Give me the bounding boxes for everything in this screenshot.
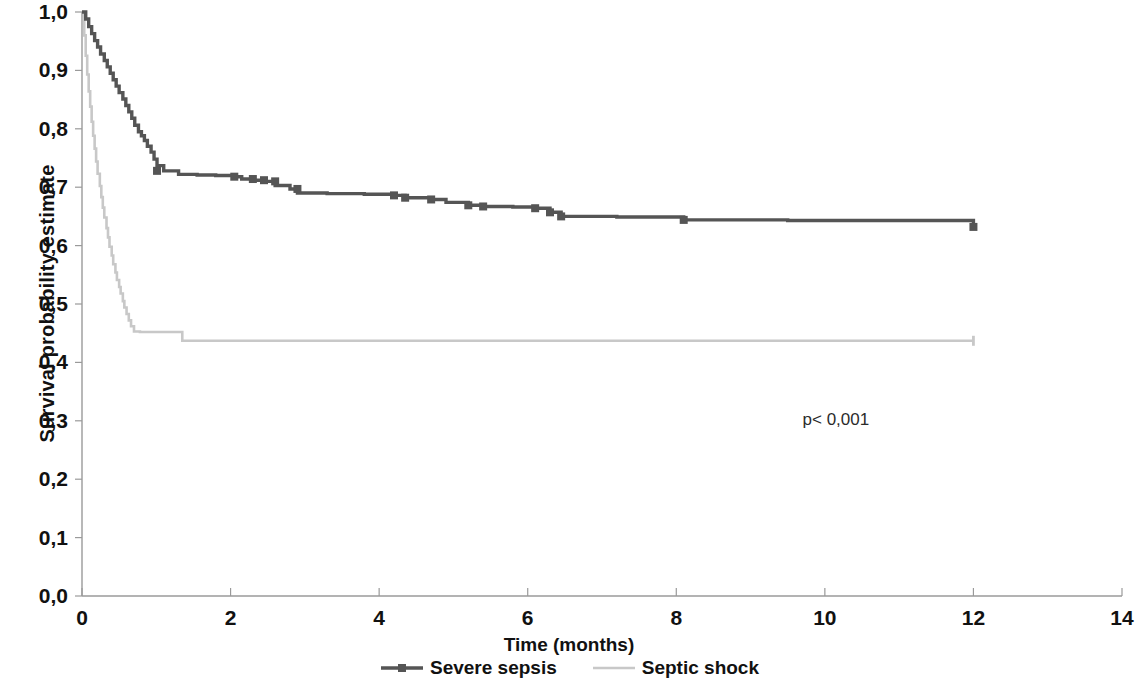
censor-marker bbox=[260, 176, 268, 184]
legend-label: Severe sepsis bbox=[430, 657, 557, 679]
x-axis-title: Time (months) bbox=[0, 634, 1138, 656]
censor-marker bbox=[293, 185, 301, 193]
censor-marker bbox=[401, 194, 409, 202]
legend-swatch-icon bbox=[379, 660, 425, 676]
legend-swatch-icon bbox=[591, 660, 637, 676]
censor-marker bbox=[531, 204, 539, 212]
censor-marker bbox=[427, 195, 435, 203]
axis-lines bbox=[82, 12, 1122, 596]
censor-marker bbox=[230, 173, 238, 181]
censor-marker bbox=[546, 208, 554, 216]
censor-marker bbox=[557, 212, 565, 220]
plot-area bbox=[0, 0, 1138, 684]
censor-marker bbox=[249, 175, 257, 183]
legend-item-septic-shock: Septic shock bbox=[591, 657, 759, 679]
censor-marker bbox=[464, 201, 472, 209]
series-severe-sepsis bbox=[82, 12, 977, 231]
series-septic-shock bbox=[82, 12, 975, 346]
censor-marker bbox=[972, 336, 975, 346]
legend-label: Septic shock bbox=[642, 657, 759, 679]
legend-item-severe-sepsis: Severe sepsis bbox=[379, 657, 557, 679]
censor-marker bbox=[969, 223, 977, 231]
axis-ticks bbox=[75, 12, 1122, 596]
censor-marker bbox=[153, 167, 161, 175]
censor-marker bbox=[390, 191, 398, 199]
censor-marker bbox=[479, 202, 487, 210]
censor-marker bbox=[680, 216, 688, 224]
survival-chart: Survival probability estimate 0,00,10,20… bbox=[0, 0, 1138, 684]
chart-legend: Severe sepsisSeptic shock bbox=[0, 657, 1138, 679]
censor-marker bbox=[271, 177, 279, 185]
p-value-annotation: p< 0,001 bbox=[803, 410, 870, 430]
series-line bbox=[82, 12, 973, 227]
